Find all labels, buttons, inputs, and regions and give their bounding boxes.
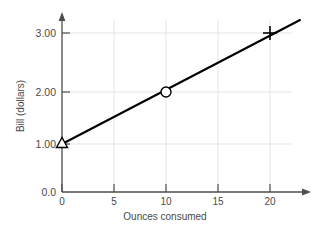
y-tick-label-1: 1.00 — [36, 138, 57, 150]
y-tick-label-3: 3.00 — [36, 27, 57, 39]
y-tick-label-2: 2.00 — [36, 86, 57, 98]
x-axis-title: Ounces consumed — [123, 211, 206, 222]
x-tick-label-20: 20 — [264, 196, 276, 207]
y-tick-label-0: 0.0 — [41, 186, 56, 198]
x-tick-label-10: 10 — [160, 196, 172, 207]
chart-container: 3.00 2.00 1.00 0.0 0 5 10 15 20 Ounces c… — [0, 0, 326, 227]
x-tick-label-0: 0 — [59, 196, 65, 207]
x-tick-label-5: 5 — [111, 196, 117, 207]
line-chart: 3.00 2.00 1.00 0.0 0 5 10 15 20 Ounces c… — [0, 0, 326, 227]
y-axis-title: Bill (dollars) — [15, 80, 26, 132]
x-tick-label-15: 15 — [212, 196, 224, 207]
marker-circle-10-2.00 — [161, 87, 171, 97]
